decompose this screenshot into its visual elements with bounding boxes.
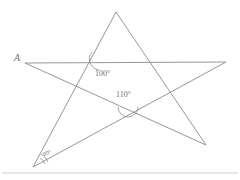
- angle-label-100: 100°: [95, 70, 110, 78]
- angle-arc-100-icon: [89, 52, 99, 70]
- figure-canvas: A 100° 110° 80°: [0, 0, 240, 180]
- vertex-label-a: A: [14, 53, 20, 63]
- angle-label-110: 110°: [116, 91, 131, 99]
